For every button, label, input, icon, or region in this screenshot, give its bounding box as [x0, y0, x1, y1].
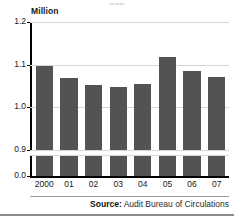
x-tick-label: 01 [57, 179, 82, 189]
source-label: Source: [90, 199, 122, 209]
y-tick-label: 1.1 [0, 60, 26, 69]
y-tick-label: 0.0 [0, 171, 26, 180]
bar [85, 85, 102, 176]
x-tick-label: 06 [180, 179, 205, 189]
bar [159, 57, 176, 176]
bar-chart-figure: ooo Million 1.21.11.00.90.0 200001020304… [0, 0, 234, 219]
y-tick-label: 1.2 [0, 17, 26, 26]
x-tick-label: 05 [155, 179, 180, 189]
bar [183, 71, 200, 176]
y-axis-unit-label: Million [31, 6, 59, 16]
plot-area: 1.21.11.00.90.0 200001020304050607 [30, 22, 229, 177]
bar [36, 66, 53, 176]
source-divider-bottom [0, 214, 234, 216]
bar [60, 78, 77, 176]
bar [134, 84, 151, 176]
y-tick-mark [27, 65, 30, 66]
x-tick-label: 07 [204, 179, 229, 189]
y-tick-label: 0.9 [0, 145, 26, 154]
x-tick-label: 03 [106, 179, 131, 189]
y-tick-mark [27, 107, 30, 108]
x-tick-label: 04 [131, 179, 156, 189]
axis-break-band [30, 150, 229, 156]
bar [208, 77, 225, 176]
clipped-title: ooo [0, 0, 234, 5]
bar [110, 87, 127, 176]
source-divider-top [30, 196, 229, 197]
source-text: Audit Bureau of Circulations [122, 199, 229, 209]
source-note: Source: Audit Bureau of Circulations [30, 199, 229, 210]
x-tick-label: 02 [81, 179, 106, 189]
y-tick-mark [27, 22, 30, 23]
y-tick-label: 1.0 [0, 102, 26, 111]
x-tick-label: 2000 [32, 179, 57, 189]
y-tick-mark [27, 176, 30, 177]
